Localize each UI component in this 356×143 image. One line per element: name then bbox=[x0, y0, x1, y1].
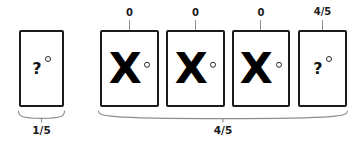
card-x-1[interactable]: X bbox=[100, 30, 159, 107]
circle-ring-icon bbox=[276, 62, 282, 68]
card-content: X bbox=[234, 51, 288, 85]
card-content: ? bbox=[300, 61, 345, 77]
top-tick-1 bbox=[195, 20, 196, 30]
card-x-2[interactable]: X bbox=[166, 30, 225, 107]
card-content: X bbox=[102, 51, 157, 85]
card-content: X bbox=[168, 51, 223, 85]
top-tick-2 bbox=[260, 20, 261, 30]
cross-glyph: X bbox=[240, 51, 273, 85]
bracket-left bbox=[17, 110, 66, 121]
card-question-1[interactable]: ? bbox=[19, 30, 64, 107]
circle-ring-icon bbox=[144, 62, 150, 68]
card-content: ? bbox=[21, 61, 62, 77]
circle-ring-icon bbox=[326, 56, 332, 62]
bracket-right bbox=[97, 110, 349, 121]
question-mark-glyph: ? bbox=[32, 61, 41, 77]
card-x-3[interactable]: X bbox=[232, 30, 290, 107]
top-tick-0 bbox=[129, 20, 130, 30]
top-label-3: 4/5 bbox=[298, 6, 347, 17]
top-tick-3 bbox=[322, 20, 323, 30]
top-label-2: 0 bbox=[232, 7, 290, 18]
question-mark-glyph: ? bbox=[313, 61, 322, 77]
circle-ring-icon bbox=[45, 56, 51, 62]
diagram-canvas: ? 1/5 0 0 0 4/5 X X X bbox=[0, 0, 356, 143]
top-label-0: 0 bbox=[100, 7, 159, 18]
circle-ring-icon bbox=[210, 62, 216, 68]
card-question-2[interactable]: ? bbox=[298, 30, 347, 107]
cross-glyph: X bbox=[108, 51, 141, 85]
bottom-label-left: 1/5 bbox=[17, 124, 66, 136]
top-label-1: 0 bbox=[166, 7, 225, 18]
bottom-label-right: 4/5 bbox=[97, 124, 349, 136]
cross-glyph: X bbox=[174, 51, 207, 85]
